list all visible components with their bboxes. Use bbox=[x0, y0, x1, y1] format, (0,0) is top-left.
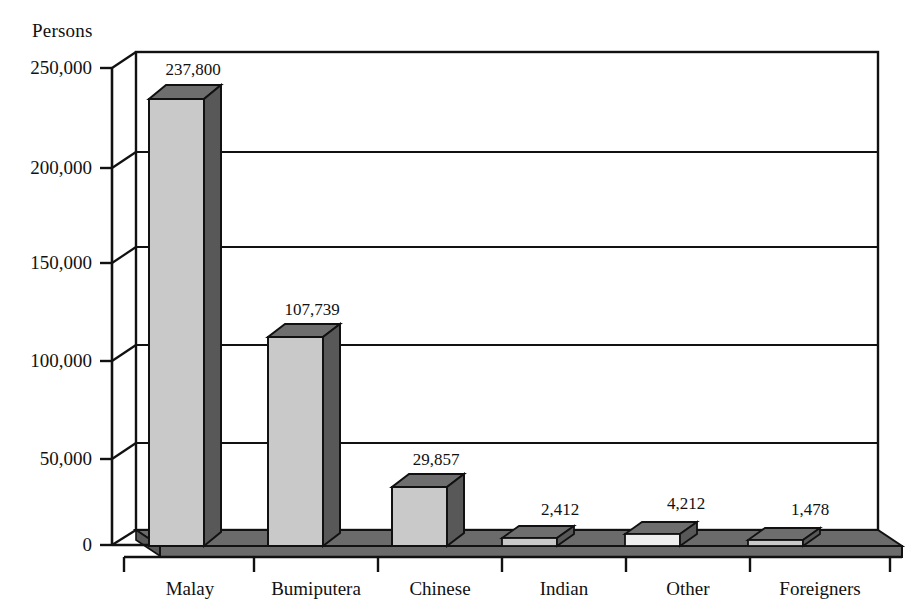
x-category-label-bumiputera: Bumiputera bbox=[271, 578, 361, 600]
y-tick-label-150000: 150,000 bbox=[0, 252, 92, 274]
bar-chart: Persons bbox=[0, 0, 918, 607]
y-tick-label-200000: 200,000 bbox=[0, 157, 92, 179]
value-label-malay: 237,800 bbox=[165, 60, 220, 80]
x-category-label-chinese: Chinese bbox=[409, 578, 470, 600]
y-tick-label-0: 0 bbox=[0, 534, 92, 556]
chart-canvas bbox=[0, 0, 918, 607]
value-label-foreigners: 1,478 bbox=[791, 500, 829, 520]
value-label-bumiputera: 107,739 bbox=[284, 300, 339, 320]
y-tick-label-100000: 100,000 bbox=[0, 350, 92, 372]
x-category-label-indian: Indian bbox=[540, 578, 589, 600]
bar-other bbox=[625, 522, 697, 546]
bar-chinese bbox=[392, 474, 464, 546]
x-category-label-other: Other bbox=[666, 578, 709, 600]
x-category-label-foreigners: Foreigners bbox=[779, 578, 860, 600]
value-label-chinese: 29,857 bbox=[413, 450, 460, 470]
y-tick-label-50000: 50,000 bbox=[0, 448, 92, 470]
y-tick-label-250000: 250,000 bbox=[0, 57, 92, 79]
value-label-other: 4,212 bbox=[667, 494, 705, 514]
value-label-indian: 2,412 bbox=[541, 500, 579, 520]
bar-malay bbox=[149, 85, 221, 546]
y-axis bbox=[100, 68, 112, 545]
x-category-label-malay: Malay bbox=[166, 578, 215, 600]
bar-bumiputera bbox=[268, 324, 340, 546]
plot-back-wall bbox=[136, 52, 878, 530]
x-axis bbox=[124, 557, 902, 572]
left-depth-wall bbox=[112, 52, 136, 545]
